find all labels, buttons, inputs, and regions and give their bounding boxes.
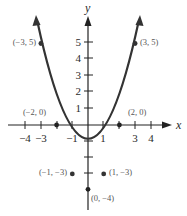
parabola-graph: x −4 −3 −1 1 3 4 y 5 4 3 2 1: [0, 0, 187, 216]
point-m1-m3: [70, 172, 75, 177]
point-label: (2, 0): [128, 107, 147, 117]
point-2-0: [117, 123, 122, 128]
x-tick-label: 1: [100, 132, 106, 144]
x-tick-label: −4: [19, 132, 31, 144]
point-1-m3: [101, 172, 106, 177]
point-label: (3, 5): [140, 37, 159, 47]
y-tick-label: 5: [76, 36, 82, 48]
x-axis-arrow-icon: [162, 122, 172, 129]
point-0-m4: [86, 187, 91, 192]
point-3-5: [133, 41, 138, 46]
point-m3-5: [39, 41, 44, 46]
x-tick-label: 3: [132, 132, 138, 144]
point-m2-0: [54, 123, 59, 128]
curve-right-arrow-icon: [136, 15, 144, 26]
x-tick-label: −3: [35, 132, 47, 144]
x-tick-label: −1: [66, 132, 78, 144]
point-label: (−3, 5): [13, 37, 36, 47]
point-label: (1, −3): [109, 167, 132, 177]
y-axis: y 5 4 3 2 1: [76, 1, 94, 210]
y-axis-arrow-icon: [85, 16, 92, 26]
y-tick-label: 3: [76, 69, 82, 81]
y-tick-label: 1: [76, 102, 82, 114]
curve-left-arrow-icon: [33, 15, 41, 26]
x-axis-label: x: [175, 118, 182, 132]
point-label: (−2, 0): [23, 107, 46, 117]
y-axis-label: y: [84, 1, 91, 15]
y-tick-label: 2: [76, 85, 82, 97]
x-axis: x −4 −3 −1 1 3 4: [8, 118, 182, 144]
y-tick-label: 4: [76, 52, 82, 64]
x-tick-label: 4: [148, 132, 154, 144]
point-label: (0, −4): [91, 193, 114, 203]
point-label: (−1, −3): [39, 167, 67, 177]
